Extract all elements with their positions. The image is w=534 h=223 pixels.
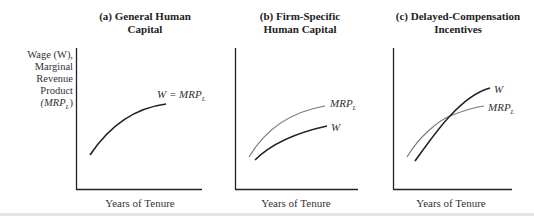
panel-b-w-label: W	[331, 121, 341, 133]
panel-c-w-label: W	[494, 83, 504, 95]
bottom-divider	[0, 213, 534, 216]
diagram-canvas: W = MRPL MRPL W W MRPL	[0, 0, 534, 223]
panel-b-w-curve	[255, 126, 327, 160]
panel-c-mrp-curve	[407, 106, 484, 157]
panel-c-mrp-label: MRPL	[487, 101, 515, 116]
panel-c-x-axis-label: Years of Tenure	[401, 197, 501, 209]
panel-b-axes	[235, 48, 358, 190]
panel-c-w-curve	[415, 88, 490, 161]
panel-c-axes	[393, 48, 512, 190]
panel-a-axes	[76, 48, 202, 190]
panel-a-curve-label: W = MRPL	[157, 88, 206, 103]
panel-a-w-mrp-curve	[90, 104, 166, 155]
panel-b-mrp-curve	[249, 106, 325, 157]
panel-a-x-axis-label: Years of Tenure	[90, 197, 190, 209]
panel-b-mrp-label: MRPL	[329, 97, 357, 112]
panel-b-x-axis-label: Years of Tenure	[246, 197, 346, 209]
